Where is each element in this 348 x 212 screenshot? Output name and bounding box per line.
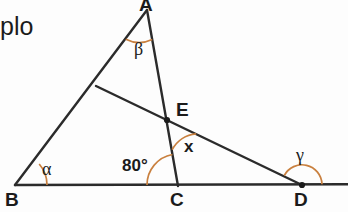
vertex-label-d: D xyxy=(294,190,308,209)
segment-cevian-ac xyxy=(147,10,178,186)
arc-angle-eighty xyxy=(147,155,172,186)
corner-text-fragment: plo xyxy=(0,14,33,39)
vertex-label-b: B xyxy=(5,190,19,209)
vertex-label-e: E xyxy=(176,100,189,119)
geometry-figure: plo A B C D E α β 80° x γ xyxy=(0,0,348,212)
vertex-label-c: C xyxy=(170,190,184,209)
point-marker-d xyxy=(299,182,305,188)
point-marker-e xyxy=(164,117,170,123)
angle-label-beta: β xyxy=(134,40,143,58)
angle-label-gamma: γ xyxy=(296,146,304,164)
arc-angle-gamma xyxy=(284,165,322,184)
vertex-label-a: A xyxy=(139,0,153,14)
geometry-canvas xyxy=(0,0,348,212)
angle-label-x: x xyxy=(184,138,193,155)
angle-label-alpha: α xyxy=(42,160,51,178)
angle-label-eighty-degrees: 80° xyxy=(122,157,148,174)
